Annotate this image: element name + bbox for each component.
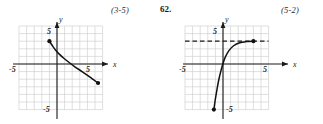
left-graph-figure: x y -5 5 5 -5	[0, 0, 140, 124]
worksheet-page: (3-5) 62. (5-2) x y -5 5 5 -5	[0, 0, 323, 124]
right-xtick-negative: -5	[179, 65, 186, 74]
left-ytick-negative: -5	[43, 105, 50, 114]
right-curve	[214, 41, 254, 109]
right-x-axis-arrow	[282, 62, 288, 67]
right-xtick-positive: 5	[263, 65, 267, 74]
left-x-axis-label: x	[112, 60, 117, 69]
left-xtick-negative: -5	[9, 65, 16, 74]
left-y-axis-label: y	[58, 15, 63, 24]
left-x-axis-arrow	[102, 62, 108, 67]
left-ytick-positive: 5	[47, 27, 51, 36]
right-grid	[185, 26, 269, 110]
left-curve-end-dot	[96, 81, 100, 85]
left-curve-start-dot	[47, 39, 51, 43]
right-ytick-negative: -5	[226, 105, 233, 114]
right-curve-start-dot	[212, 108, 216, 112]
right-ytick-positive: 5	[213, 27, 217, 36]
right-y-axis-label: y	[224, 15, 229, 24]
right-graph-figure: x y -5 5 5 -5	[170, 0, 320, 124]
right-curve-end-dot	[251, 39, 255, 43]
left-graph-svg: x y -5 5 5 -5	[0, 0, 140, 124]
right-x-axis-label: x	[292, 60, 297, 69]
right-graph-svg: x y -5 5 5 -5	[170, 0, 320, 124]
left-grid	[19, 26, 103, 110]
left-xtick-positive: 5	[86, 65, 90, 74]
